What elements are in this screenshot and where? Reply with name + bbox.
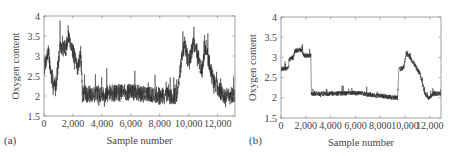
- line-chart-a: 02,0004,0006,0008,00010,00012,0001.522.5…: [0, 0, 240, 156]
- y-tick-label: 4: [35, 11, 40, 22]
- y-tick-label: 3.5: [265, 32, 278, 43]
- x-tick-label: 10,000: [391, 120, 419, 131]
- x-tick-label: 10,000: [175, 118, 203, 129]
- y-tick-label: 1.5: [28, 111, 41, 122]
- y-tick-label: 2.5: [28, 71, 41, 82]
- x-tick-label: 8,000: [369, 120, 392, 131]
- x-tick-label: 0: [279, 120, 284, 131]
- y-tick-label: 3: [35, 51, 40, 62]
- chart-panel-a: 02,0004,0006,0008,00010,00012,0001.522.5…: [0, 0, 240, 156]
- x-tick-label: 12,000: [416, 120, 444, 131]
- y-tick-label: 2.5: [265, 72, 278, 83]
- y-tick-label: 2: [35, 91, 40, 102]
- y-tick-label: 3: [272, 52, 277, 63]
- x-tick-label: 6,000: [120, 118, 143, 129]
- x-axis-label: Sample number: [106, 135, 173, 146]
- x-tick-label: 4,000: [91, 118, 114, 129]
- line-chart-b: 02,0004,0006,0008,00010,00012,0001.522.5…: [240, 0, 455, 156]
- y-tick-label: 2: [272, 92, 277, 103]
- x-tick-label: 6,000: [344, 120, 367, 131]
- x-axis-label: Sample number: [328, 137, 395, 148]
- x-tick-label: 4,000: [319, 120, 342, 131]
- x-tick-label: 12,000: [204, 118, 232, 129]
- panel-label-b: (b): [249, 134, 262, 146]
- x-tick-label: 8,000: [149, 118, 172, 129]
- y-tick-label: 4: [272, 12, 277, 23]
- data-series-line: [44, 21, 235, 108]
- x-tick-label: 2,000: [62, 118, 85, 129]
- y-tick-label: 1.5: [265, 113, 278, 124]
- x-tick-label: 2,000: [295, 120, 318, 131]
- y-tick-label: 3.5: [28, 31, 41, 42]
- plot-frame: [44, 16, 235, 116]
- y-axis-label: Oxygen content: [247, 34, 258, 101]
- y-axis-label: Oxygen content: [10, 33, 21, 100]
- x-tick-label: 0: [42, 118, 47, 129]
- panel-label-a: (a): [4, 134, 16, 146]
- data-series-line: [281, 44, 441, 100]
- chart-panel-b: 02,0004,0006,0008,00010,00012,0001.522.5…: [240, 0, 455, 156]
